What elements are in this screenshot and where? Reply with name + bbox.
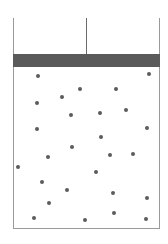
gas-particle — [114, 87, 118, 91]
gas-particle — [46, 155, 50, 159]
gas-particle — [99, 135, 103, 139]
gas-particle — [60, 95, 64, 99]
gas-particle — [144, 217, 148, 221]
gas-particle — [112, 211, 116, 215]
gas-particle — [131, 152, 135, 156]
gas-particle — [40, 180, 44, 184]
gas-particle — [108, 153, 112, 157]
gas-particle — [70, 145, 74, 149]
gas-particle — [78, 87, 82, 91]
gas-particle — [16, 165, 20, 169]
gas-particle — [35, 101, 39, 105]
gas-particle — [69, 113, 73, 117]
gas-particle — [65, 188, 69, 192]
gas-particle — [98, 111, 102, 115]
container-right-wall — [159, 18, 160, 228]
container-floor — [13, 228, 160, 229]
piston — [13, 54, 160, 67]
container-left-wall — [13, 18, 14, 228]
gas-particle — [35, 127, 39, 131]
gas-particle — [111, 191, 115, 195]
gas-particle — [124, 108, 128, 112]
piston-rod — [86, 18, 87, 54]
gas-particle — [36, 74, 40, 78]
gas-particle — [145, 196, 149, 200]
gas-particle — [47, 201, 51, 205]
gas-particle — [145, 126, 149, 130]
gas-particle — [147, 72, 151, 76]
gas-particle — [32, 216, 36, 220]
gas-particle — [94, 170, 98, 174]
gas-particle — [83, 218, 87, 222]
